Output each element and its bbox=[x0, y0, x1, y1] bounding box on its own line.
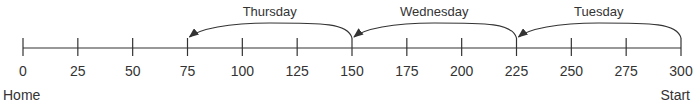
tick-label: 25 bbox=[70, 63, 86, 79]
jump-arc bbox=[190, 23, 353, 38]
tick-label: 100 bbox=[231, 63, 255, 79]
tick-label: 50 bbox=[125, 63, 141, 79]
tick-label: 175 bbox=[395, 63, 419, 79]
jump-arc bbox=[519, 23, 682, 38]
tick-label: 300 bbox=[669, 63, 693, 79]
tick-label: 250 bbox=[560, 63, 584, 79]
start-label: Start bbox=[660, 87, 690, 103]
jump-label: Thursday bbox=[243, 4, 298, 19]
tick-label: 275 bbox=[614, 63, 638, 79]
tick-label: 200 bbox=[450, 63, 474, 79]
jump-label: Wednesday bbox=[400, 4, 469, 19]
tick-label: 150 bbox=[340, 63, 364, 79]
tick-label: 225 bbox=[505, 63, 529, 79]
number-line-diagram: 0255075100125150175200225250275300 Tuesd… bbox=[0, 0, 693, 110]
tick-group: 0255075100125150175200225250275300 bbox=[19, 38, 693, 79]
tick-label: 75 bbox=[180, 63, 196, 79]
jump-label: Tuesday bbox=[574, 4, 624, 19]
tick-label: 0 bbox=[19, 63, 27, 79]
jump-arc bbox=[354, 23, 517, 38]
tick-label: 125 bbox=[285, 63, 309, 79]
jump-arcs-group: TuesdayWednesdayThursday bbox=[190, 4, 682, 38]
home-label: Home bbox=[3, 87, 41, 103]
